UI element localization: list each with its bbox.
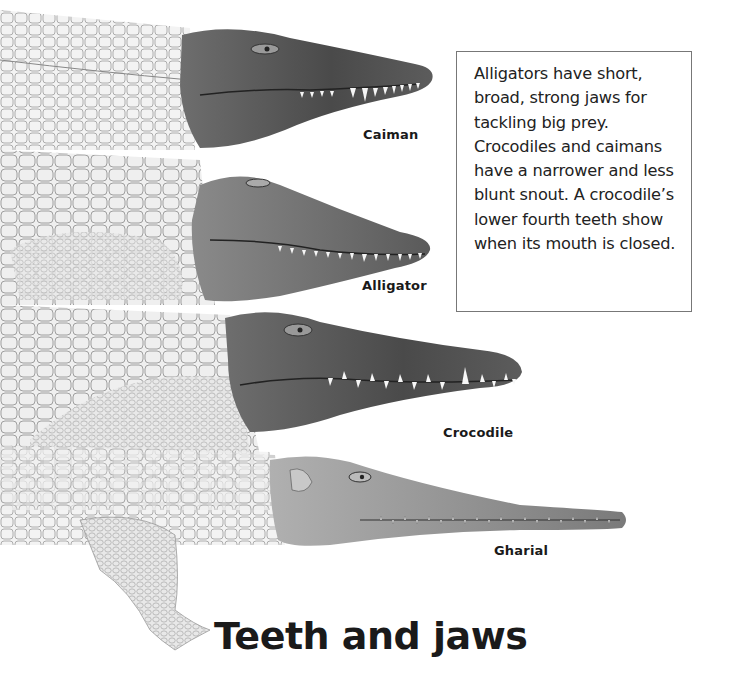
caiman-label: Caiman xyxy=(363,127,419,142)
info-text-box: Alligators have short, broad, strong jaw… xyxy=(456,51,692,312)
gharial-label: Gharial xyxy=(494,543,548,558)
alligator-label: Alligator xyxy=(362,278,427,293)
crocodile-label: Crocodile xyxy=(443,425,513,440)
page-title: Teeth and jaws xyxy=(214,614,527,658)
info-text: Alligators have short, broad, strong jaw… xyxy=(474,62,679,256)
